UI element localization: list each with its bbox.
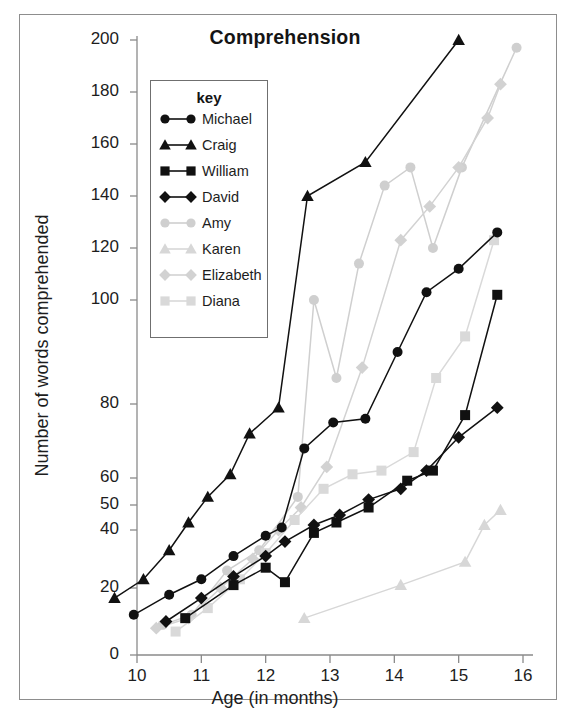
legend-label: Craig [202,137,237,153]
legend-label: Diana [202,293,240,309]
y-tick-label: 40 [59,519,119,539]
legend-item-karen[interactable]: Karen [151,236,267,262]
y-tick-label: 200 [59,29,119,49]
y-tick-label: 50 [59,494,119,514]
legend-label: Karen [202,241,241,257]
legend-marker-square-icon [158,292,198,310]
legend-marker-diamond-icon [158,266,198,284]
legend-item-elizabeth[interactable]: Elizabeth [151,262,267,288]
legend-item-diana[interactable]: Diana [151,288,267,314]
x-tick-label: 14 [374,666,414,686]
legend-marker-triangle-icon [158,240,198,258]
legend-item-david[interactable]: David [151,184,267,210]
legend-rows: MichaelCraigWilliamDavidAmyKarenElizabet… [151,106,267,314]
legend-label: William [202,163,249,179]
legend-item-william[interactable]: William [151,158,267,184]
legend-marker-circle-icon [158,110,198,128]
y-tick-label: 20 [59,577,119,597]
legend-label: David [202,189,239,205]
legend-title: key [151,89,267,106]
y-tick-label: 180 [59,81,119,101]
y-tick-label: 160 [59,133,119,153]
legend-label: Elizabeth [202,267,262,283]
legend-item-amy[interactable]: Amy [151,210,267,236]
legend: key MichaelCraigWilliamDavidAmyKarenEliz… [150,80,268,338]
y-tick-label: 120 [59,237,119,257]
x-tick-label: 12 [246,666,286,686]
y-tick-label: 140 [59,185,119,205]
y-tick-label: 0 [59,644,119,664]
y-tick-label: 60 [59,467,119,487]
legend-item-craig[interactable]: Craig [151,132,267,158]
y-tick-label: 100 [59,289,119,309]
legend-marker-triangle-icon [158,136,198,154]
legend-label: Michael [202,111,252,127]
legend-marker-circle-icon [158,214,198,232]
series-karen [298,504,507,623]
legend-marker-diamond-icon [158,188,198,206]
series-david [160,401,504,628]
legend-item-michael[interactable]: Michael [151,106,267,132]
legend-label: Amy [202,215,231,231]
y-tick-label: 80 [59,393,119,413]
figure-container: Comprehension Number of words comprehend… [0,0,570,721]
x-tick-label: 10 [117,666,157,686]
plot-area [0,0,570,721]
legend-marker-square-icon [158,162,198,180]
x-tick-label: 13 [310,666,350,686]
x-tick-label: 11 [181,666,221,686]
x-tick-label: 16 [503,666,543,686]
x-tick-label: 15 [439,666,479,686]
